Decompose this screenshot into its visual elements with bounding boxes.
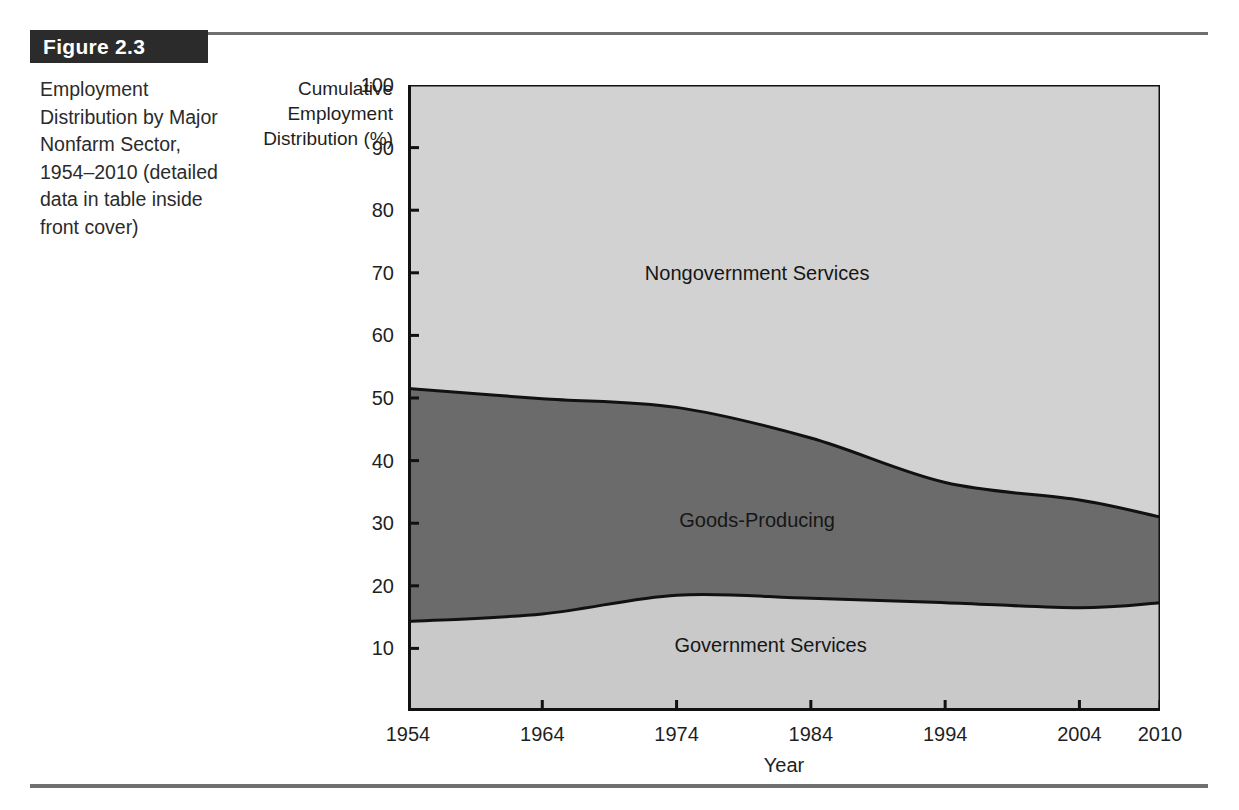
x-axis-tick-label: 2010 xyxy=(1110,722,1210,746)
figure-container: Figure 2.3 Employment Distribution by Ma… xyxy=(0,0,1239,810)
chart-plot-area xyxy=(408,85,1160,711)
figure-caption: Employment Distribution by Major Nonfarm… xyxy=(40,76,240,241)
series-label-government-services: Government Services xyxy=(674,634,866,657)
x-axis-title: Year xyxy=(408,754,1160,777)
x-axis-tick-labels: 1954196419741984199420042010 xyxy=(0,722,1239,752)
x-axis-tick-label: 1974 xyxy=(627,722,727,746)
y-axis-tick-label: 40 xyxy=(330,451,394,471)
y-axis-tick-label: 60 xyxy=(330,325,394,345)
y-axis-tick-label: 80 xyxy=(330,200,394,220)
y-axis-tick-labels: 102030405060708090100 xyxy=(330,0,394,810)
x-axis-tick-label: 1964 xyxy=(492,722,592,746)
y-axis-tick-label: 100 xyxy=(330,75,394,95)
x-axis-tick-label: 1994 xyxy=(895,722,995,746)
y-axis-tick-label: 70 xyxy=(330,263,394,283)
y-axis-tick-label: 20 xyxy=(330,576,394,596)
bottom-divider-rule xyxy=(30,784,1208,788)
x-axis-tick-label: 1984 xyxy=(761,722,861,746)
y-axis-tick-label: 90 xyxy=(330,138,394,158)
series-label-nongovernment-services: Nongovernment Services xyxy=(645,261,870,284)
stacked-area-chart xyxy=(408,85,1160,711)
y-axis-tick-label: 50 xyxy=(330,388,394,408)
x-axis-tick-label: 1954 xyxy=(358,722,458,746)
y-axis-tick-label: 30 xyxy=(330,513,394,533)
figure-number-tag: Figure 2.3 xyxy=(30,30,208,63)
y-axis-tick-label: 10 xyxy=(330,638,394,658)
series-label-goods-producing: Goods-Producing xyxy=(679,509,835,532)
